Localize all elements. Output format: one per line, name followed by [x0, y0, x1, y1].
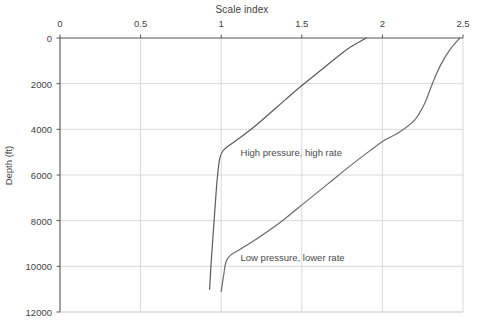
series-curve-0 — [210, 38, 367, 289]
series-curve-1 — [221, 38, 460, 291]
plot-area — [0, 0, 484, 328]
data-curves — [210, 38, 460, 291]
axis-frame — [57, 35, 464, 313]
gridlines — [60, 38, 463, 312]
scale-index-depth-chart: Scale index Depth (ft) 00.511.522.5 0200… — [0, 0, 484, 328]
